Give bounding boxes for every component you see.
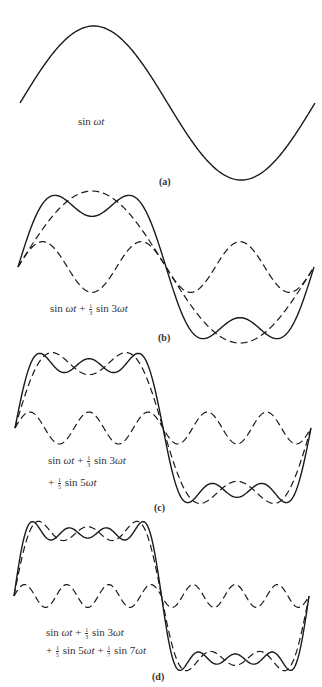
denominator: 3 bbox=[87, 462, 90, 468]
panel-d-label: (d) bbox=[152, 672, 164, 682]
curve-solid-0 bbox=[20, 26, 315, 180]
denominator: 5 bbox=[58, 484, 61, 490]
panel-b-label: (b) bbox=[158, 333, 170, 343]
formula-text: sin 3 bbox=[93, 302, 117, 314]
formula-omega-t: ωt bbox=[117, 302, 128, 314]
panel-c-formula-line2: + 15 sin 5ωt bbox=[48, 477, 97, 490]
formula-omega-t: ωt bbox=[113, 626, 124, 638]
fraction-one-third: 13 bbox=[85, 627, 88, 640]
formula-plus: + bbox=[46, 644, 55, 656]
fraction-one-third: 13 bbox=[87, 455, 90, 468]
formula-text: sin bbox=[48, 454, 64, 466]
formula-omega-t: ωt bbox=[94, 115, 105, 127]
formula-text: sin 3 bbox=[89, 626, 113, 638]
formula-plus: + bbox=[72, 626, 84, 638]
panel-d-formula-line1: sin ωt + 13 sin 3ωt bbox=[46, 627, 124, 640]
formula-plus: + bbox=[95, 644, 107, 656]
panel-c-formula-line1: sin ωt + 13 sin 3ωt bbox=[48, 455, 126, 468]
numerator: 1 bbox=[89, 303, 92, 310]
panel-b-plot bbox=[18, 191, 314, 343]
fraction-one-fifth: 15 bbox=[58, 477, 61, 490]
numerator: 1 bbox=[85, 627, 88, 634]
panel-a-plot bbox=[20, 26, 315, 180]
formula-omega-t: ωt bbox=[86, 476, 97, 488]
fraction-one-fifth: 15 bbox=[56, 645, 59, 658]
formula-text: sin bbox=[46, 626, 62, 638]
fraction-one-third: 13 bbox=[89, 303, 92, 316]
formula-text: sin 7 bbox=[111, 644, 135, 656]
formula-omega-t: ωt bbox=[66, 302, 77, 314]
denominator: 7 bbox=[107, 652, 110, 658]
formula-text: sin 5 bbox=[60, 644, 84, 656]
formula-text: sin bbox=[50, 302, 66, 314]
panel-b-formula: sin ωt + 13 sin 3ωt bbox=[50, 303, 128, 316]
formula-omega-t: ωt bbox=[115, 454, 126, 466]
denominator: 3 bbox=[85, 634, 88, 640]
formula-omega-t: ωt bbox=[135, 644, 146, 656]
formula-text: sin bbox=[78, 115, 94, 127]
panel-d-formula-line2: + 15 sin 5ωt + 17 sin 7ωt bbox=[46, 645, 146, 658]
formula-text: sin 5 bbox=[62, 476, 86, 488]
panel-a-formula: sin ωt bbox=[78, 116, 104, 127]
denominator: 3 bbox=[89, 310, 92, 316]
formula-omega-t: ωt bbox=[62, 626, 73, 638]
panel-a-label: (a) bbox=[159, 177, 171, 187]
panel-c-label: (c) bbox=[154, 503, 165, 513]
formula-plus: + bbox=[74, 454, 86, 466]
formula-plus: + bbox=[48, 476, 57, 488]
formula-plus: + bbox=[76, 302, 88, 314]
numerator: 1 bbox=[58, 477, 61, 484]
denominator: 5 bbox=[56, 652, 59, 658]
formula-text: sin 3 bbox=[91, 454, 115, 466]
formula-omega-t: ωt bbox=[64, 454, 75, 466]
formula-omega-t: ωt bbox=[84, 644, 95, 656]
fraction-one-seventh: 17 bbox=[107, 645, 110, 658]
curve-solid-2 bbox=[18, 195, 314, 338]
numerator: 1 bbox=[56, 645, 59, 652]
numerator: 1 bbox=[87, 455, 90, 462]
fourier-figure bbox=[0, 0, 322, 687]
numerator: 1 bbox=[107, 645, 110, 652]
